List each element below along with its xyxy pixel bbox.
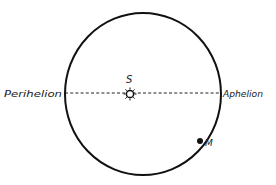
aphelion-label: Aphelion	[222, 88, 263, 99]
sun-icon	[124, 88, 137, 101]
orbit-ellipse	[65, 13, 221, 175]
perihelion-label: Perihelion	[4, 88, 62, 99]
body-m-dot	[197, 138, 203, 144]
orbit-diagram: S Perihelion Aphelion M	[0, 0, 276, 185]
sun-label: S	[126, 74, 133, 85]
body-m-label: M	[205, 138, 213, 148]
